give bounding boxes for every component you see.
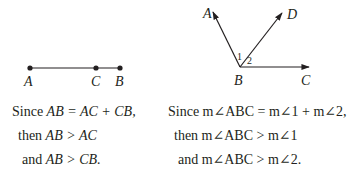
point-a-dot xyxy=(27,65,32,70)
right-line-3: and m∠ABC > m∠2. xyxy=(168,148,347,172)
left-line-2-math: AB > AC xyxy=(46,128,97,143)
segment-figure: A C B xyxy=(23,65,124,89)
vertex-b-label: B xyxy=(234,73,243,88)
left-line-3-math: AB > CB. xyxy=(46,152,101,167)
right-line-2: then m∠ABC > m∠1 xyxy=(168,124,347,148)
left-line-1-math: AB = AC + CB, xyxy=(47,104,136,119)
geometry-diagrams: A C B A D C B 1 2 xyxy=(0,0,361,100)
point-b-label: B xyxy=(115,74,124,89)
ray-ba xyxy=(213,12,240,67)
left-line-2-prefix: then xyxy=(18,128,46,143)
angle-figure: A D C B 1 2 xyxy=(202,6,311,88)
ray-a-label: A xyxy=(202,6,212,21)
left-line-2: then AB > AC xyxy=(12,124,136,148)
point-c-label: C xyxy=(91,74,101,89)
segment-addition-text: Since AB = AC + CB, then AB > AC and AB … xyxy=(12,100,136,172)
ray-c-label: C xyxy=(301,73,311,88)
angle-addition-text: Since m∠ABC = m∠1 + m∠2, then m∠ABC > m∠… xyxy=(168,100,347,172)
left-line-3-prefix: and xyxy=(22,152,46,167)
point-b-dot xyxy=(117,65,122,70)
ray-d-label: D xyxy=(286,7,297,22)
left-line-3: and AB > CB. xyxy=(12,148,136,172)
left-line-1-prefix: Since xyxy=(12,104,47,119)
point-c-dot xyxy=(93,65,98,70)
point-a-label: A xyxy=(23,74,33,89)
angle-1-label: 1 xyxy=(237,51,242,62)
right-line-1: Since m∠ABC = m∠1 + m∠2, xyxy=(168,100,347,124)
angle-2-label: 2 xyxy=(247,55,252,66)
left-line-1: Since AB = AC + CB, xyxy=(12,100,136,124)
